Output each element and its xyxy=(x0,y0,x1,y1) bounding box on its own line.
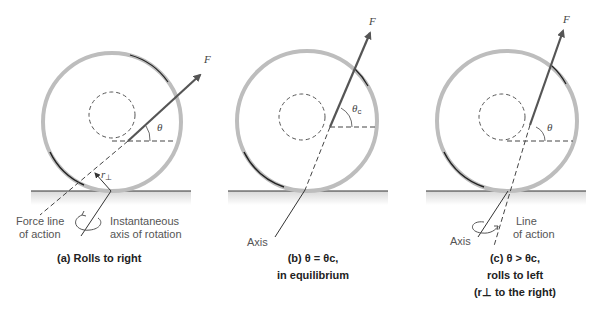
caption-c-line1: (c) θ > θc, xyxy=(460,250,570,267)
angle-arc xyxy=(536,127,545,141)
force-symbol-a: F xyxy=(204,53,211,65)
panel-c xyxy=(426,31,586,246)
axis-label-b: Axis xyxy=(247,236,268,249)
rim-shadow xyxy=(50,152,84,185)
line-of-action-label: Line of action xyxy=(513,215,555,241)
axis-label-line1: Instantaneous xyxy=(110,215,182,228)
rim-shadow xyxy=(244,152,284,187)
theta-symbol-a: θ xyxy=(157,121,162,133)
force-line-label-line2: of action xyxy=(16,228,64,241)
line-of-action-line2: of action xyxy=(513,228,555,241)
axle-circle xyxy=(89,92,135,138)
wheel-rim xyxy=(437,51,577,191)
angle-arc xyxy=(341,108,352,127)
rotation-arrow-icon xyxy=(76,215,101,230)
force-arrow xyxy=(128,75,200,141)
caption-c: (c) θ > θc, rolls to left (r⊥ to the rig… xyxy=(460,250,570,301)
panel-a xyxy=(31,53,200,236)
force-symbol-c: F xyxy=(563,13,570,25)
caption-a: (a) Rolls to right xyxy=(57,250,141,267)
perp-subscript: ⊥ xyxy=(105,173,112,182)
instantaneous-axis-label: Instantaneous axis of rotation xyxy=(110,215,182,241)
c-subscript: c xyxy=(357,107,361,116)
caption-b-line1: (b) θ = θc, xyxy=(263,250,363,267)
axle-circle xyxy=(279,94,325,140)
rotation-arrow-icon xyxy=(472,222,498,233)
angle-arc xyxy=(146,126,150,141)
theta-symbol-c: θ xyxy=(547,121,552,133)
axis-label-c: Axis xyxy=(450,235,471,248)
caption-b: (b) θ = θc, in equilibrium xyxy=(263,250,363,284)
ground-shade xyxy=(228,191,388,205)
rim-shadow xyxy=(444,152,484,187)
caption-c-line3: (r⊥ to the right) xyxy=(460,284,570,301)
ground-shade xyxy=(426,191,586,205)
caption-b-line2: in equilibrium xyxy=(263,267,363,284)
theta-c-symbol-b: θc xyxy=(352,102,361,116)
wheel-rim xyxy=(237,51,377,191)
force-arrow xyxy=(530,31,563,125)
ground-shade xyxy=(31,191,191,205)
rotation-arrowhead-icon xyxy=(82,211,86,216)
caption-c-line2: rolls to left xyxy=(460,267,570,284)
line-of-action-line1: Line xyxy=(513,215,555,228)
caption-a-line1: (a) Rolls to right xyxy=(57,250,141,267)
axis-label-line2: axis of rotation xyxy=(110,228,182,241)
force-line-label: Force line of action xyxy=(16,215,64,241)
force-symbol-b: F xyxy=(369,15,376,27)
axle-circle xyxy=(479,94,525,140)
force-line-of-action xyxy=(305,127,330,190)
panel-b xyxy=(228,33,388,237)
r-perp-symbol: r⊥ xyxy=(101,168,112,182)
force-line-label-line1: Force line xyxy=(16,215,64,228)
